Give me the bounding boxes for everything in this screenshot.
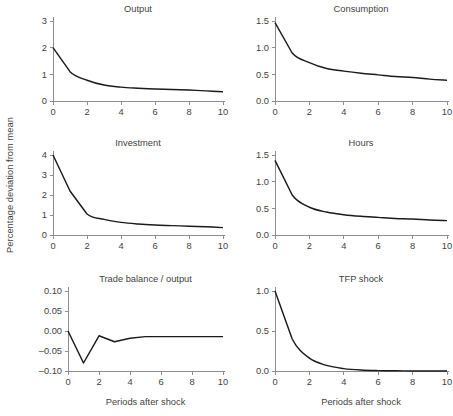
x-tick-label: 2 <box>307 107 312 117</box>
y-tick-label: 0 <box>42 96 47 106</box>
x-tick-label: 2 <box>307 241 312 251</box>
x-tick-label: 6 <box>376 377 381 387</box>
x-tick-label: 8 <box>186 107 191 117</box>
plot-svg: 01230246810 <box>18 4 233 123</box>
data-series-line <box>68 331 223 363</box>
data-series-line <box>275 23 447 81</box>
x-tick-label: 4 <box>118 107 123 117</box>
plot-svg: 0.00.51.01.50246810 <box>237 138 453 257</box>
x-tick-label: 8 <box>410 107 415 117</box>
panel-hours: Hours 0.00.51.01.50246810 <box>237 138 453 264</box>
y-tick-label: –0.10 <box>39 366 62 376</box>
plot-svg: 0.00.51.01.50246810 <box>237 4 453 123</box>
y-tick-label: 0.5 <box>256 326 269 336</box>
shared-y-axis-label-area: Percentage deviation from mean <box>0 0 20 416</box>
x-tick-label: 6 <box>152 241 157 251</box>
y-tick-label: 1.0 <box>256 286 269 296</box>
x-tick-label: 2 <box>84 107 89 117</box>
panel-trade-balance-output: Trade balance / output 0.100.050.00–0.05… <box>18 274 228 416</box>
x-tick-label: 4 <box>118 241 123 251</box>
y-tick-label: 1.0 <box>256 43 269 53</box>
x-tick-label: 6 <box>152 107 157 117</box>
y-tick-label: 0.5 <box>256 204 269 214</box>
y-tick-label: 0.0 <box>256 230 269 240</box>
data-series-line <box>275 160 447 220</box>
panel-investment: Investment 012340246810 <box>18 138 228 264</box>
y-tick-label: 0.00 <box>44 326 62 336</box>
x-tick-label: 0 <box>65 377 70 387</box>
panel-grid: Output 01230246810 Consumption 0.00.51.0… <box>18 0 453 416</box>
y-tick-label: 3 <box>42 16 47 26</box>
x-tick-label: 6 <box>376 241 381 251</box>
y-tick-label: 0.0 <box>256 96 269 106</box>
impulse-response-figure: Percentage deviation from mean Output 01… <box>0 0 453 416</box>
y-tick-label: 1 <box>42 210 47 220</box>
x-tick-label: 8 <box>410 377 415 387</box>
x-tick-label: 10 <box>218 241 228 251</box>
x-tick-label: 10 <box>218 377 228 387</box>
x-tick-label: 6 <box>158 377 163 387</box>
x-tick-label: 2 <box>84 241 89 251</box>
x-axis-label: Periods after shock <box>68 397 223 407</box>
x-tick-label: 0 <box>50 241 55 251</box>
x-tick-label: 0 <box>272 241 277 251</box>
x-tick-label: 8 <box>189 377 194 387</box>
data-series-line <box>53 155 223 228</box>
y-tick-label: 2 <box>42 43 47 53</box>
x-tick-label: 4 <box>341 241 346 251</box>
x-tick-label: 10 <box>442 377 452 387</box>
y-tick-label: 2 <box>42 190 47 200</box>
panel-consumption: Consumption 0.00.51.01.50246810 <box>237 4 453 130</box>
plot-svg: 0.100.050.00–0.05–0.100246810 <box>18 274 233 393</box>
y-tick-label: 4 <box>42 150 47 160</box>
plot-svg: 0.00.51.00246810 <box>237 274 453 393</box>
panel-output: Output 01230246810 <box>18 4 228 130</box>
x-tick-label: 0 <box>272 377 277 387</box>
y-tick-label: 1 <box>42 70 47 80</box>
x-tick-label: 2 <box>307 377 312 387</box>
y-tick-label: 0 <box>42 230 47 240</box>
y-tick-label: 0.0 <box>256 366 269 376</box>
x-tick-label: 10 <box>442 107 452 117</box>
y-tick-label: 1.5 <box>256 150 269 160</box>
data-series-line <box>53 48 223 92</box>
x-tick-label: 6 <box>376 107 381 117</box>
x-axis-label: Periods after shock <box>275 397 447 407</box>
x-tick-label: 0 <box>50 107 55 117</box>
x-tick-label: 8 <box>410 241 415 251</box>
data-series-line <box>275 291 447 371</box>
y-tick-label: 3 <box>42 170 47 180</box>
y-tick-label: 1.5 <box>256 16 269 26</box>
x-tick-label: 4 <box>341 377 346 387</box>
plot-svg: 012340246810 <box>18 138 233 257</box>
y-tick-label: 0.05 <box>44 306 62 316</box>
shared-y-axis-label: Percentage deviation from mean <box>5 117 15 253</box>
y-tick-label: 0.5 <box>256 70 269 80</box>
x-tick-label: 2 <box>96 377 101 387</box>
x-tick-label: 10 <box>442 241 452 251</box>
y-tick-label: 0.10 <box>44 286 62 296</box>
y-tick-label: –0.05 <box>39 346 62 356</box>
y-tick-label: 1.0 <box>256 177 269 187</box>
x-tick-label: 0 <box>272 107 277 117</box>
x-tick-label: 10 <box>218 107 228 117</box>
x-tick-label: 4 <box>127 377 132 387</box>
x-tick-label: 4 <box>341 107 346 117</box>
panel-tfp-shock: TFP shock 0.00.51.00246810 Periods after… <box>237 274 453 416</box>
x-tick-label: 8 <box>186 241 191 251</box>
